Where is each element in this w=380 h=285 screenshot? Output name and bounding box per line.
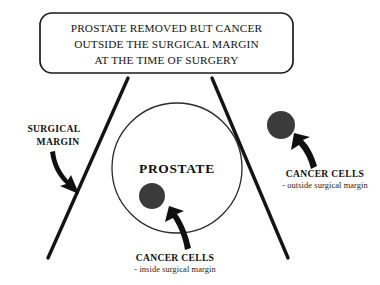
diagram-root: PROSTATE PROSTATE REMOVED BUT CANCER OUT… <box>0 0 380 285</box>
cancer-inside-label-line-1: CANCER CELLS <box>136 252 215 263</box>
title-line-2: OUTSIDE THE SURGICAL MARGIN <box>74 38 259 50</box>
surgical-margin-label-line-2: MARGIN <box>37 136 80 147</box>
title-line-3: AT THE TIME OF SURGERY <box>95 54 239 66</box>
cancer-inside-label-line-2: - inside surgical margin <box>134 265 216 274</box>
title-line-1: PROSTATE REMOVED BUT CANCER <box>71 22 263 34</box>
cancer-outside-label-line-2: - outside surgical margin <box>282 181 368 190</box>
cancer-cell-outside-dot <box>267 111 295 139</box>
prostate-label: PROSTATE <box>139 161 215 176</box>
surgical-margin-label-line-1: SURGICAL <box>27 123 80 134</box>
cancer-cell-inside-dot <box>139 183 165 209</box>
cancer-outside-label-line-1: CANCER CELLS <box>286 168 365 179</box>
surgical-margin-diagram: PROSTATE PROSTATE REMOVED BUT CANCER OUT… <box>0 0 380 285</box>
